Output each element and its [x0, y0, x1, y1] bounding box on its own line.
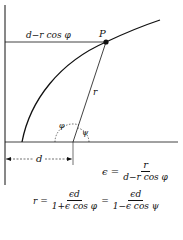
radius-frac1-numerator: ϵd: [67, 190, 82, 201]
label-point-p: P: [99, 29, 106, 39]
radius-frac2-numerator: ϵd: [128, 190, 143, 201]
eccentricity-equation: ϵ = r d−r cos φ: [102, 160, 172, 182]
radius-frac1-denominator: 1+ϵ cos φ: [50, 201, 99, 211]
radius-lhs: r =: [33, 196, 48, 206]
eccentricity-lhs: ϵ =: [102, 166, 119, 177]
arrow-left-icon: [6, 157, 11, 161]
label-angle-phi: φ: [59, 122, 65, 130]
radius-frac2-denominator: 1−ϵ cos ψ: [111, 201, 161, 211]
arrow-right-icon: [67, 157, 72, 161]
radius-equals: =: [101, 196, 109, 206]
label-angle-psi: ψ: [82, 129, 88, 137]
label-radius-r: r: [93, 88, 97, 97]
eccentricity-numerator: r: [141, 160, 150, 172]
label-d-minus-rcosphi: d−r cos φ: [26, 31, 71, 40]
radius-equation: r = ϵd 1+ϵ cos φ = ϵd 1−ϵ cos ψ: [33, 190, 163, 211]
label-distance-d: d: [36, 154, 42, 164]
eccentricity-denominator: d−r cos φ: [121, 172, 170, 182]
point-p: [103, 39, 108, 44]
